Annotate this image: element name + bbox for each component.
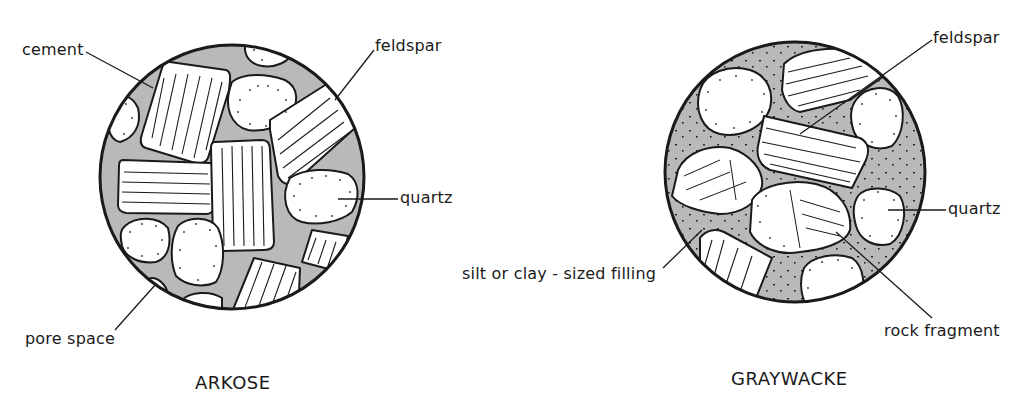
quartz-grain: [285, 170, 357, 224]
quartz-grain: [801, 255, 863, 306]
label-rock-fragment: rock fragment: [884, 322, 1000, 340]
leader-line-feldspar: [335, 50, 374, 100]
rock-fragment-grain: [750, 182, 850, 253]
sandstone-diagrams: [0, 0, 1019, 407]
label-silt-or-clay-sized-filling: silt or clay - sized filling: [462, 265, 656, 283]
arkose-thin-section: [86, 42, 398, 330]
label-feldspar: feldspar: [933, 29, 1000, 47]
quartz-grain: [172, 219, 223, 286]
leader-line-cement: [86, 52, 153, 88]
feldspar-grain: [118, 160, 215, 214]
label-cement: cement: [22, 41, 84, 59]
graywacke-thin-section: [663, 40, 946, 318]
label-feldspar: feldspar: [375, 37, 442, 55]
diagram-title-graywacke: GRAYWACKE: [731, 369, 848, 389]
label-quartz: quartz: [948, 200, 1001, 218]
leader-line-pore-space: [115, 284, 156, 330]
label-quartz: quartz: [400, 189, 453, 207]
quartz-grain: [854, 189, 904, 246]
label-pore-space: pore space: [25, 330, 115, 348]
diagram-title-arkose: ARKOSE: [195, 373, 271, 393]
